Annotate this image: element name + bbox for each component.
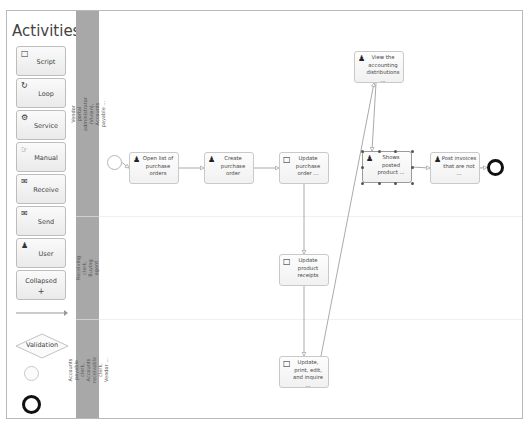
resize-handle[interactable] [361, 150, 364, 153]
resize-handle[interactable] [361, 166, 364, 169]
start-event[interactable] [107, 155, 122, 170]
process-designer: Activities □ Script ↻ Loop ⚙ Service ☞ M… [6, 10, 523, 419]
resize-handle[interactable] [394, 182, 397, 185]
end-event[interactable] [487, 159, 504, 176]
resize-handle[interactable] [361, 182, 364, 185]
task-label: Update, print, edit, and inquire ... [290, 359, 326, 389]
resize-handle[interactable] [411, 182, 414, 185]
sequence-flow[interactable] [372, 83, 376, 151]
task-label: Create purchase order [215, 155, 251, 178]
task-t2[interactable]: ♟Create purchase order [204, 152, 254, 184]
task-label: Post invoices that are not ... [441, 155, 477, 178]
diagram-canvas[interactable]: ♟Open list of purchase orders♟Create pur… [7, 11, 522, 418]
task-label: View the accounting distributions ... [365, 54, 401, 84]
sequence-flow[interactable] [321, 83, 374, 356]
resize-handle[interactable] [411, 166, 414, 169]
resize-handle[interactable] [378, 150, 381, 153]
task-label: Shows posted product ... [373, 154, 409, 177]
task-label: Update purchase order ... [290, 155, 326, 178]
task-t3[interactable]: □Update purchase order ... [279, 152, 329, 184]
resize-handle[interactable] [411, 150, 414, 153]
task-label: Open list of purchase orders [140, 155, 176, 178]
task-t4[interactable]: ♟View the accounting distributions ... [354, 51, 404, 83]
task-t7[interactable]: □Update product receipts [279, 254, 329, 286]
task-label: Update product receipts [290, 257, 326, 280]
task-t8[interactable]: □Update, print, edit, and inquire ... [279, 356, 329, 388]
sequence-flows [7, 11, 524, 420]
resize-handle[interactable] [394, 150, 397, 153]
task-t5[interactable]: ♟Shows posted product ... [362, 151, 412, 183]
task-t1[interactable]: ♟Open list of purchase orders [129, 152, 179, 184]
resize-handle[interactable] [378, 182, 381, 185]
task-t6[interactable]: ♟Post invoices that are not ... [430, 152, 480, 184]
